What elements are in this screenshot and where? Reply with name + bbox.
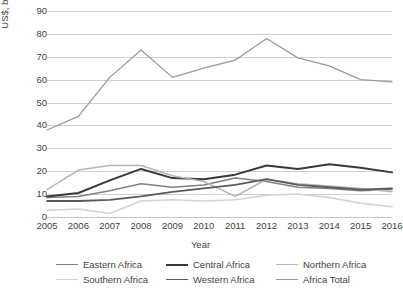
y-axis-tick-label: 30	[17, 143, 47, 153]
y-axis-tick-label: 10	[17, 189, 47, 199]
legend-item-western-africa[interactable]: Western Africa	[166, 274, 276, 285]
x-axis-tick-label: 2016	[381, 221, 402, 231]
legend-swatch-line-icon	[276, 279, 298, 280]
chart-legend: Eastern AfricaCentral AfricaNorthern Afr…	[56, 259, 386, 285]
y-axis-tick-label: 20	[17, 166, 47, 176]
legend-item-africa-total[interactable]: Africa Total	[276, 274, 386, 285]
legend-item-eastern-africa[interactable]: Eastern Africa	[56, 259, 166, 270]
legend-item-southern-africa[interactable]: Southern Africa	[56, 274, 166, 285]
legend-label: Western Africa	[193, 274, 255, 285]
legend-label: Northern Africa	[303, 259, 366, 270]
legend-swatch-line-icon	[166, 279, 188, 280]
y-axis-tick-label: 60	[17, 75, 47, 85]
plot-area	[47, 11, 392, 217]
legend-swatch-line-icon	[166, 264, 188, 266]
x-axis-tick-label: 2010	[193, 221, 214, 231]
y-axis-tick-label: 40	[17, 120, 47, 130]
legend-label: Central Africa	[193, 259, 250, 270]
legend-swatch-line-icon	[56, 279, 78, 280]
x-axis-tick-label: 2008	[131, 221, 152, 231]
y-axis-tick-label: 80	[17, 29, 47, 39]
x-axis-tick-label: 2015	[350, 221, 371, 231]
legend-item-central-africa[interactable]: Central Africa	[166, 259, 276, 270]
x-axis-tick-label: 2006	[68, 221, 89, 231]
legend-swatch-line-icon	[56, 264, 78, 265]
series-line-africa-total	[47, 38, 392, 130]
gridline	[47, 217, 392, 218]
x-axis-tick-label: 2011	[225, 221, 245, 231]
legend-swatch-line-icon	[276, 264, 298, 265]
x-axis-tick-label: 2012	[256, 221, 277, 231]
series-line-southern-africa	[47, 194, 392, 213]
x-axis-tick-label: 2013	[287, 221, 308, 231]
legend-item-northern-africa[interactable]: Northern Africa	[276, 259, 386, 270]
y-axis-title: US$, billions (current prices)	[0, 0, 10, 44]
y-axis-tick-label: 50	[17, 98, 47, 108]
series-line-western-africa	[47, 179, 392, 201]
series-lines	[47, 11, 392, 217]
series-line-central-africa	[47, 164, 392, 196]
y-axis-tick-label: 90	[17, 6, 47, 16]
x-axis-tick-label: 2005	[36, 221, 57, 231]
x-axis-tick-label: 2007	[99, 221, 120, 231]
legend-label: Africa Total	[303, 274, 350, 285]
legend-label: Eastern Africa	[83, 259, 142, 270]
y-axis-tick-label: 70	[17, 52, 47, 62]
legend-label: Southern Africa	[83, 274, 148, 285]
x-axis-title: Year	[0, 239, 401, 250]
x-axis-tick-label: 2014	[319, 221, 340, 231]
x-axis-tick-label: 2009	[162, 221, 183, 231]
